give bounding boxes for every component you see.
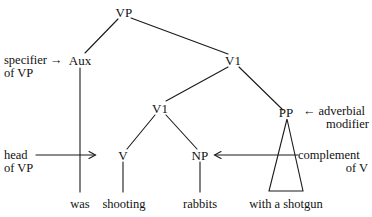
terminal-rabbits: rabbits bbox=[183, 198, 217, 211]
node-v: V bbox=[118, 149, 128, 162]
edge-vp-aux bbox=[85, 19, 118, 53]
annotation-adverbial-line2-wrap: modifier bbox=[303, 118, 369, 131]
annotation-adverbial-arrow-icon: ← bbox=[303, 104, 319, 118]
syntax-tree-diagram: VP Aux V1 V1 V NP PP was shooting rabbit… bbox=[0, 0, 372, 217]
annotation-head-line2: of VP bbox=[4, 161, 33, 175]
edge-vp-v1upper bbox=[131, 18, 228, 54]
node-v1-upper: V1 bbox=[225, 54, 241, 67]
annotation-complement-line1: complement bbox=[298, 148, 360, 162]
terminal-with-a-shotgun: with a shotgun bbox=[249, 198, 323, 211]
annotation-specifier-line2-wrap: of VP bbox=[4, 67, 33, 80]
node-vp: VP bbox=[116, 6, 133, 19]
edge-v1lower-v bbox=[127, 115, 155, 149]
annotation-complement-line2-wrap: of V bbox=[298, 162, 368, 175]
edge-v1lower-np bbox=[166, 115, 197, 149]
annotation-complement-line2: of V bbox=[346, 161, 368, 175]
annotation-specifier-line1: specifier bbox=[4, 53, 47, 67]
node-np: NP bbox=[192, 149, 209, 162]
annotation-specifier-arrow-icon: → bbox=[47, 53, 63, 67]
node-aux: Aux bbox=[69, 54, 92, 67]
terminal-shooting: shooting bbox=[102, 198, 145, 211]
edge-v1upper-v1lower bbox=[166, 67, 228, 101]
node-v1-lower: V1 bbox=[152, 102, 168, 115]
edge-v1upper-pp bbox=[239, 67, 283, 110]
annotation-adverbial-line1: adverbial bbox=[319, 104, 366, 118]
annotation-adverbial-line2: modifier bbox=[326, 117, 369, 131]
annotation-specifier-line2: of VP bbox=[4, 66, 33, 80]
annotation-head-line1: head bbox=[4, 148, 28, 162]
node-pp: PP bbox=[279, 106, 294, 119]
annotation-head-line2-wrap: of VP bbox=[4, 162, 33, 175]
terminal-was: was bbox=[70, 198, 89, 211]
